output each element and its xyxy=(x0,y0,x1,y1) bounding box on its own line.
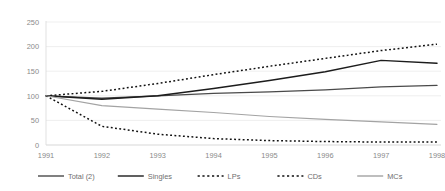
x-axis-tick-label: 1994 xyxy=(205,151,221,160)
y-axis-ticks: 050100150200250 xyxy=(27,18,39,150)
x-axis-tick-label: 1993 xyxy=(149,151,165,160)
axis-lines xyxy=(46,21,441,145)
y-axis-tick-label: 0 xyxy=(35,141,39,150)
legend-label: Singles xyxy=(148,172,173,181)
x-axis-tick-label: 1997 xyxy=(373,151,389,160)
x-axis-ticks: 19911992199319941995199619971998 xyxy=(38,151,445,160)
series-line xyxy=(46,60,437,99)
series-line xyxy=(46,85,437,98)
y-axis-tick-label: 50 xyxy=(31,116,39,125)
legend-label: LPs xyxy=(228,172,241,181)
legend-label: MCs xyxy=(387,172,402,181)
y-axis-tick-label: 100 xyxy=(27,92,39,101)
x-axis-tick-label: 1992 xyxy=(94,151,110,160)
legend-label: Total (2) xyxy=(68,172,95,181)
series-line xyxy=(46,44,437,96)
legend-label: CDs xyxy=(307,172,322,181)
chart-canvas: 050100150200250 199119921993199419951996… xyxy=(0,0,445,191)
series-lines xyxy=(46,44,437,142)
y-axis-tick-label: 200 xyxy=(27,42,39,51)
x-axis-tick-label: 1991 xyxy=(38,151,54,160)
legend: Total (2)SinglesLPsCDsMCs xyxy=(38,172,403,181)
y-axis-tick-label: 150 xyxy=(27,67,39,76)
series-line xyxy=(46,96,437,142)
x-axis-tick-label: 1995 xyxy=(261,151,277,160)
x-axis-tick-label: 1998 xyxy=(429,151,445,160)
y-axis-tick-label: 250 xyxy=(27,18,39,27)
line-chart: 050100150200250 199119921993199419951996… xyxy=(0,0,445,191)
x-axis-tick-label: 1996 xyxy=(317,151,333,160)
